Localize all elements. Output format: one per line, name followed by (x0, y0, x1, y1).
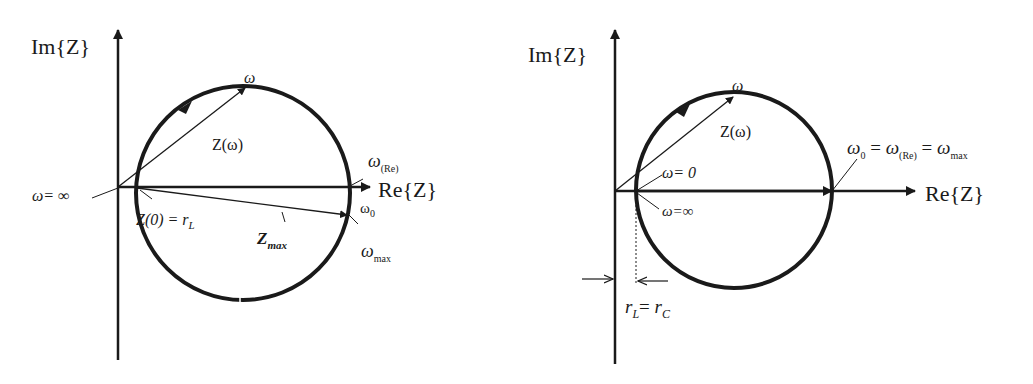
right-diagram: Im{Z} Re{Z} ω Z(ω) ω= 0 ω=∞ ω0 = ω(Re) =… (528, 30, 984, 364)
right-omega-zero-label: ω= 0 (662, 164, 696, 181)
left-omega-max-label: ωmax (361, 241, 391, 264)
left-z0-label: Z(0) = rL (136, 211, 195, 231)
left-impedance-circle (136, 86, 350, 300)
right-z-omega-label: Z(ω) (720, 123, 751, 141)
left-omega-label: ω (244, 69, 255, 86)
left-omega-infinity-label: ω= ∞ (32, 187, 70, 204)
left-re-axis-label: Re{Z} (378, 177, 437, 202)
left-diagram: Im{Z} Re{Z} ω Z(ω) ω= ∞ Z(0) = rL ω(Re) … (31, 30, 437, 360)
left-im-axis-label: Im{Z} (31, 34, 90, 59)
right-re-axis-label: Re{Z} (925, 181, 984, 206)
right-omega-infinity-label: ω=∞ (662, 203, 694, 219)
left-omega0-label: ω0 (360, 200, 375, 219)
right-resonance-equality-label: ω0 = ω(Re) = ωmax (847, 137, 968, 162)
left-omega-re-label: ω(Re) (368, 151, 399, 175)
left-zmax-label: Zmax (256, 229, 287, 251)
left-z-omega-label: Z(ω) (212, 136, 243, 154)
impedance-locus-diagrams: Im{Z} Re{Z} ω Z(ω) ω= ∞ Z(0) = rL ω(Re) … (0, 0, 1033, 384)
right-im-axis-label: Im{Z} (528, 42, 587, 67)
right-rl-rc-label: rL= rC (625, 296, 671, 321)
right-omega-label: ω (732, 77, 743, 94)
